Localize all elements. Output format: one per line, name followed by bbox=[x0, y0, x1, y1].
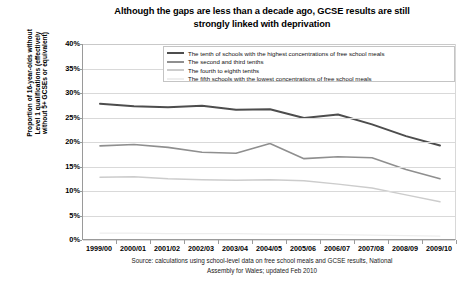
x-axis-tick-label: 2004/05 bbox=[256, 244, 282, 253]
legend-line-swatch bbox=[167, 78, 184, 80]
x-axis-tick-mark bbox=[116, 240, 117, 244]
series-line bbox=[100, 143, 440, 178]
x-axis-tick-label: 2008/09 bbox=[392, 244, 418, 253]
x-axis-tick-label: 2003/04 bbox=[222, 244, 248, 253]
x-axis-tick-mark bbox=[388, 240, 389, 244]
gridline bbox=[83, 240, 455, 241]
chart-legend: The tenth of schools with the highest co… bbox=[163, 46, 455, 82]
source-note: Source: calculations using school-level … bbox=[62, 256, 462, 275]
source-line-2: Assembly for Wales; updated Feb 2010 bbox=[62, 266, 462, 276]
legend-item[interactable]: The tenth of schools with the highest co… bbox=[167, 49, 451, 57]
y-axis-tick-mark bbox=[77, 167, 82, 168]
x-axis-tick-label: 2002/03 bbox=[188, 244, 214, 253]
series-line bbox=[100, 104, 440, 146]
x-axis-tick-mark bbox=[252, 240, 253, 244]
source-line-1: Source: calculations using school-level … bbox=[62, 256, 462, 266]
x-axis-tick-labels: 1999/002000/012001/022002/032003/042004/… bbox=[82, 244, 456, 256]
x-axis-tick-label: 2000/01 bbox=[120, 244, 146, 253]
gridline bbox=[83, 167, 455, 168]
y-axis-tick-label: 25% bbox=[50, 114, 80, 122]
y-axis-tick-label: 30% bbox=[50, 89, 80, 97]
legend-label: The second and third tenths bbox=[188, 58, 264, 65]
x-axis-tick-mark bbox=[422, 240, 423, 244]
chart-container: Although the gaps are less than a decade… bbox=[0, 0, 475, 281]
x-axis-tick-label: 2001/02 bbox=[154, 244, 180, 253]
legend-item[interactable]: The fifth schools with the lowest concen… bbox=[167, 75, 451, 83]
legend-line-swatch bbox=[167, 69, 184, 71]
legend-item[interactable]: The second and third tenths bbox=[167, 58, 451, 66]
gridline bbox=[83, 118, 455, 119]
y-axis-tick-labels: 0%5%10%15%20%25%30%35%40% bbox=[46, 0, 80, 281]
legend-label: The tenth of schools with the highest co… bbox=[188, 50, 384, 57]
y-axis-tick-mark bbox=[77, 93, 82, 94]
title-line-2: strongly linked with deprivation bbox=[62, 18, 462, 31]
x-axis-tick-mark bbox=[320, 240, 321, 244]
legend-line-swatch bbox=[167, 61, 184, 63]
x-axis-tick-label: 2007/08 bbox=[358, 244, 384, 253]
x-axis-tick-label: 2005/06 bbox=[290, 244, 316, 253]
series-line bbox=[100, 177, 440, 202]
y-axis-tick-label: 35% bbox=[50, 65, 80, 73]
y-axis-tick-mark bbox=[77, 240, 82, 241]
y-axis-tick-mark bbox=[77, 69, 82, 70]
y-axis-tick-label: 15% bbox=[50, 163, 80, 171]
y-axis-tick-label: 5% bbox=[50, 212, 80, 220]
series-line bbox=[100, 233, 440, 236]
x-axis-tick-mark bbox=[286, 240, 287, 244]
gridline bbox=[83, 142, 455, 143]
gridline bbox=[83, 216, 455, 217]
x-axis-tick-mark bbox=[456, 240, 457, 244]
title-line-1: Although the gaps are less than a decade… bbox=[62, 5, 462, 18]
legend-line-swatch bbox=[167, 52, 184, 54]
x-axis-tick-mark bbox=[218, 240, 219, 244]
x-axis-tick-label: 2009/10 bbox=[426, 244, 452, 253]
y-axis-tick-mark bbox=[77, 142, 82, 143]
y-axis-tick-mark bbox=[77, 44, 82, 45]
y-axis-tick-mark bbox=[77, 191, 82, 192]
y-axis-tick-mark bbox=[77, 216, 82, 217]
y-axis-tick-label: 10% bbox=[50, 187, 80, 195]
y-axis-tick-label: 40% bbox=[50, 40, 80, 48]
legend-item[interactable]: The fourth to eighth tenths bbox=[167, 66, 451, 74]
x-axis-tick-mark bbox=[184, 240, 185, 244]
gridline bbox=[83, 93, 455, 94]
y-axis-tick-label: 0% bbox=[50, 236, 80, 244]
y-axis-tick-mark bbox=[77, 118, 82, 119]
x-axis-tick-label: 1999/00 bbox=[86, 244, 112, 253]
y-axis-title-line-1: Proportion of 16-year-olds without bbox=[26, 0, 34, 168]
y-axis-title: Proportion of 16-year-olds without Level… bbox=[26, 0, 48, 168]
page-title: Although the gaps are less than a decade… bbox=[62, 5, 462, 30]
legend-label: The fifth schools with the lowest concen… bbox=[188, 75, 372, 82]
x-axis-tick-mark bbox=[150, 240, 151, 244]
legend-label: The fourth to eighth tenths bbox=[188, 67, 259, 74]
gridline bbox=[83, 191, 455, 192]
x-axis-tick-label: 2006/07 bbox=[324, 244, 350, 253]
x-axis-tick-mark bbox=[354, 240, 355, 244]
y-axis-tick-label: 20% bbox=[50, 138, 80, 146]
y-axis-title-line-2: Level 1 qualifications (effectively bbox=[34, 0, 42, 168]
